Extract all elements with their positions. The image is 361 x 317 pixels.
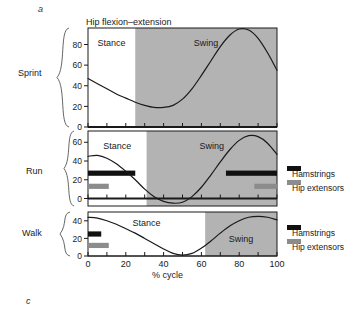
phase-label-stance: Stance <box>133 218 161 228</box>
legend-label-hamstrings-run: Hamstrings <box>292 169 335 179</box>
y-tick-label: 20 <box>73 102 83 112</box>
x-tick-label: 0 <box>85 259 90 269</box>
plot-panel-walk: 02040StanceSwing020406080100 <box>73 212 285 269</box>
y-tick-label: 0 <box>77 251 82 261</box>
y-tick-label: 60 <box>73 137 83 147</box>
hip-flexion-extension-plot: 020406080StanceSwing0204060StanceSwing02… <box>0 0 361 317</box>
row-brace <box>60 212 70 256</box>
legend-label-hamstrings-walk: Hamstrings <box>292 228 335 238</box>
x-tick-label: 100 <box>269 259 284 269</box>
phase-label-stance: Stance <box>103 141 131 151</box>
y-tick-label: 20 <box>73 234 83 244</box>
x-tick-label: 40 <box>159 259 169 269</box>
emg-bar-hip-extensors <box>88 184 109 189</box>
x-tick-label: 80 <box>234 259 244 269</box>
emg-bar-hamstrings <box>88 231 101 236</box>
phase-label-swing: Swing <box>229 234 254 244</box>
x-tick-label: 60 <box>196 259 206 269</box>
emg-bar-hamstrings <box>226 171 277 176</box>
phase-label-swing: Swing <box>194 38 219 48</box>
y-tick-label: 60 <box>73 60 83 70</box>
x-tick-label: 20 <box>121 259 131 269</box>
emg-bar-hip-extensors <box>254 184 277 189</box>
legend-label-hip-extensors-run: Hip extensors <box>292 183 344 193</box>
y-tick-label: 40 <box>73 216 83 226</box>
y-tick-label: 20 <box>73 175 83 185</box>
row-brace <box>57 28 69 127</box>
plot-panel-run: 0204060StanceSwing <box>73 131 277 206</box>
y-tick-label: 80 <box>73 40 83 50</box>
figure-container: a c Hip flexion–extension Sprint Run Wal… <box>0 0 361 317</box>
phase-label-stance: Stance <box>98 38 126 48</box>
legend-label-hip-extensors-walk: Hip extensors <box>292 242 344 252</box>
plot-panel-sprint: 020406080StanceSwing <box>73 28 277 132</box>
y-tick-label: 0 <box>77 122 82 132</box>
y-tick-label: 40 <box>73 81 83 91</box>
y-tick-label: 40 <box>73 156 83 166</box>
phase-label-swing: Swing <box>200 141 225 151</box>
emg-bar-hip-extensors <box>88 243 109 248</box>
y-tick-label: 0 <box>77 194 82 204</box>
